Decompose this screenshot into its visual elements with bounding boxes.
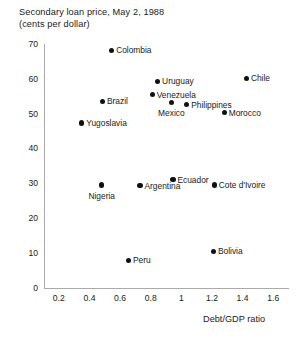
data-point-label: Argentina xyxy=(144,181,180,189)
x-tick-label: 1 xyxy=(179,294,184,303)
data-point-label: Peru xyxy=(133,256,151,264)
data-point-label: Chile xyxy=(251,74,270,82)
data-point-label: Uruguay xyxy=(162,77,194,85)
data-point-label: Colombia xyxy=(116,46,151,54)
data-point-label: Bolivia xyxy=(218,247,243,255)
data-point-label: Cote d'Ivoire xyxy=(219,181,266,189)
x-axis-label: Debt/GDP ratio xyxy=(203,315,265,324)
data-point-label: Brazil xyxy=(107,97,128,105)
x-tick-label: 0.8 xyxy=(145,294,157,303)
x-tick-label: 0.2 xyxy=(53,294,65,303)
data-point-label: Mexico xyxy=(158,109,185,117)
x-tick-label: 1.4 xyxy=(237,294,249,303)
x-tick-label: 0.6 xyxy=(114,294,126,303)
x-tick-label: 1.6 xyxy=(267,294,279,303)
data-point xyxy=(212,182,217,187)
data-point-label: Venezuela xyxy=(157,91,196,99)
data-point-label: Philippines xyxy=(191,100,232,108)
scatter-chart-figure: Secondary loan price, May 2, 1988 (cents… xyxy=(0,0,299,349)
x-tick-label: 0.4 xyxy=(83,294,95,303)
data-point-label: Yugoslavia xyxy=(86,119,127,127)
data-point-label: Ecuador xyxy=(177,175,208,183)
data-point-label: Morocco xyxy=(229,108,261,116)
x-tick-label: 1.2 xyxy=(206,294,218,303)
data-point xyxy=(222,110,227,115)
data-point xyxy=(99,182,104,187)
data-point-label: Nigeria xyxy=(88,192,115,200)
data-point xyxy=(137,183,142,188)
